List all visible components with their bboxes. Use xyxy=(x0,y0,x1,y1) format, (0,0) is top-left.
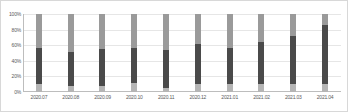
bar-stack[interactable] xyxy=(195,14,201,92)
plot-area: 100% 80% 60% 40% 20% 0% 2020.072020.0820… xyxy=(23,14,341,92)
x-axis-tick-label: 2020.10 xyxy=(126,95,143,100)
bar-segment-top-segment[interactable] xyxy=(322,14,328,25)
bar-segment-middle-segment[interactable] xyxy=(99,49,105,86)
bar-segment-top-segment[interactable] xyxy=(227,14,233,48)
bar-slot[interactable]: 2021.01 xyxy=(214,14,246,92)
bar-segment-top-segment[interactable] xyxy=(99,14,105,49)
bar-segment-bottom-segment[interactable] xyxy=(195,84,201,92)
bar-segment-top-segment[interactable] xyxy=(258,14,264,42)
bar-segment-bottom-segment[interactable] xyxy=(290,84,296,92)
x-axis-tick-label: 2020.11 xyxy=(158,95,174,100)
bar-slot[interactable]: 2020.09 xyxy=(87,14,119,92)
bar-stack[interactable] xyxy=(99,14,105,92)
y-axis-tick-label: 60% xyxy=(12,43,21,48)
bar-stack[interactable] xyxy=(322,14,328,92)
x-axis-tick-label: 2020.12 xyxy=(190,95,207,100)
bar-group: 2020.072020.082020.092020.102020.112020.… xyxy=(23,14,341,92)
bar-segment-top-segment[interactable] xyxy=(131,14,137,48)
x-axis-tick-label: 2021.02 xyxy=(253,95,270,100)
x-axis-tick-label: 2021.04 xyxy=(317,95,334,100)
x-axis-tick-label: 2020.07 xyxy=(31,95,48,100)
bar-stack[interactable] xyxy=(36,14,42,92)
bar-stack[interactable] xyxy=(131,14,137,92)
y-axis-tick-label: 20% xyxy=(12,74,21,79)
stacked-bar-chart: 100% 80% 60% 40% 20% 0% 2020.072020.0820… xyxy=(0,0,348,112)
x-axis-tick-label: 2021.01 xyxy=(221,95,238,100)
bar-segment-bottom-segment[interactable] xyxy=(99,86,105,92)
y-axis-tick-label: 40% xyxy=(12,58,21,63)
bar-segment-middle-segment[interactable] xyxy=(68,52,74,86)
bar-stack[interactable] xyxy=(290,14,296,92)
bar-segment-middle-segment[interactable] xyxy=(163,50,169,88)
y-axis-tick-label: 80% xyxy=(12,27,21,32)
bar-segment-bottom-segment[interactable] xyxy=(68,86,74,92)
bar-segment-middle-segment[interactable] xyxy=(322,25,328,84)
bar-segment-top-segment[interactable] xyxy=(36,14,42,48)
bar-slot[interactable]: 2020.12 xyxy=(182,14,214,92)
bar-segment-middle-segment[interactable] xyxy=(258,42,264,84)
x-axis-tick-label: 2020.09 xyxy=(94,95,111,100)
bar-segment-middle-segment[interactable] xyxy=(36,48,42,85)
bar-slot[interactable]: 2020.08 xyxy=(55,14,87,92)
bar-stack[interactable] xyxy=(227,14,233,92)
bar-segment-top-segment[interactable] xyxy=(195,14,201,44)
bar-segment-middle-segment[interactable] xyxy=(131,48,137,82)
bar-slot[interactable]: 2021.03 xyxy=(277,14,309,92)
bar-stack[interactable] xyxy=(163,14,169,92)
bar-segment-bottom-segment[interactable] xyxy=(163,88,169,92)
bar-segment-middle-segment[interactable] xyxy=(290,36,296,84)
bar-segment-top-segment[interactable] xyxy=(163,14,169,50)
bar-stack[interactable] xyxy=(68,14,74,92)
bar-segment-bottom-segment[interactable] xyxy=(322,84,328,92)
x-axis-tick-label: 2021.03 xyxy=(285,95,302,100)
y-axis-tick-label: 0% xyxy=(14,90,21,95)
bar-slot[interactable]: 2021.04 xyxy=(309,14,341,92)
x-axis-tick-label: 2020.08 xyxy=(62,95,79,100)
bar-stack[interactable] xyxy=(258,14,264,92)
bar-segment-top-segment[interactable] xyxy=(68,14,74,52)
bar-segment-bottom-segment[interactable] xyxy=(258,84,264,92)
bar-slot[interactable]: 2020.11 xyxy=(150,14,182,92)
bar-segment-middle-segment[interactable] xyxy=(227,48,233,85)
bar-segment-top-segment[interactable] xyxy=(290,14,296,36)
bar-segment-bottom-segment[interactable] xyxy=(227,84,233,92)
bar-segment-bottom-segment[interactable] xyxy=(36,84,42,92)
bar-slot[interactable]: 2020.10 xyxy=(118,14,150,92)
bar-slot[interactable]: 2021.02 xyxy=(246,14,278,92)
y-axis-tick-label: 100% xyxy=(9,12,21,17)
bar-slot[interactable]: 2020.07 xyxy=(23,14,55,92)
bar-segment-bottom-segment[interactable] xyxy=(131,83,137,92)
bar-segment-middle-segment[interactable] xyxy=(195,44,201,84)
